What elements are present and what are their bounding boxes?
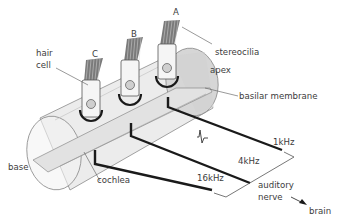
label-auditory: auditory — [258, 180, 294, 190]
label-c: C — [92, 49, 98, 59]
cochlea-diagram: A B C hair cell stereocilia apex basilar… — [0, 0, 337, 224]
label-cell: cell — [36, 60, 51, 70]
label-1khz: 1kHz — [273, 137, 295, 147]
label-a: A — [173, 7, 179, 17]
label-brain: brain — [309, 206, 331, 216]
label-base: base — [8, 162, 29, 172]
stereocilia-a — [160, 20, 180, 46]
hair-cell-a — [156, 20, 180, 87]
label-basilar-membrane: basilar membrane — [239, 91, 318, 101]
arrow-head-icon — [299, 199, 307, 205]
label-apex: apex — [210, 65, 231, 75]
label-16khz: 16kHz — [197, 173, 224, 183]
action-potential-icon — [197, 130, 208, 143]
label-cochlea: cochlea — [97, 175, 130, 185]
label-4khz: 4kHz — [238, 156, 260, 166]
label-stereocilia: stereocilia — [215, 47, 259, 57]
label-hair: hair — [36, 48, 53, 58]
hair-cell-c — [80, 58, 103, 121]
label-nerve: nerve — [258, 192, 283, 202]
label-b: B — [131, 29, 137, 39]
